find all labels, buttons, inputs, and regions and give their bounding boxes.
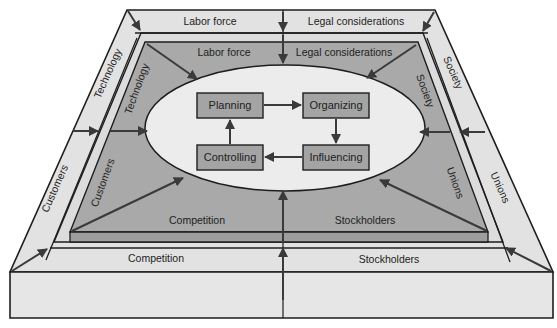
outer-label-stockholders: Stockholders [359,253,420,265]
influencing-label: Influencing [309,151,362,163]
outer-platform-front-face [10,272,553,318]
outer-label-competition: Competition [128,252,184,264]
inner-label-stockholders: Stockholders [335,214,396,226]
organizing-label: Organizing [309,99,362,111]
outer-label-labor-force: Labor force [183,15,236,27]
planning-box: Planning [197,93,263,118]
inner-label-competition: Competition [169,214,225,226]
influencing-box: Influencing [303,145,369,170]
controlling-box: Controlling [197,145,263,170]
inner-label-legal-considerations: Legal considerations [296,46,392,58]
management-cycle-ellipse [145,65,425,191]
internal-panel-front-strip [70,232,488,242]
inner-label-labor-force: Labor force [197,46,250,58]
organizing-box: Organizing [303,93,369,118]
outer-label-legal-considerations: Legal considerations [308,15,404,27]
management-environment-diagram: Labor force Legal considerations Technol… [0,0,557,328]
planning-label: Planning [209,99,252,111]
controlling-label: Controlling [204,151,257,163]
